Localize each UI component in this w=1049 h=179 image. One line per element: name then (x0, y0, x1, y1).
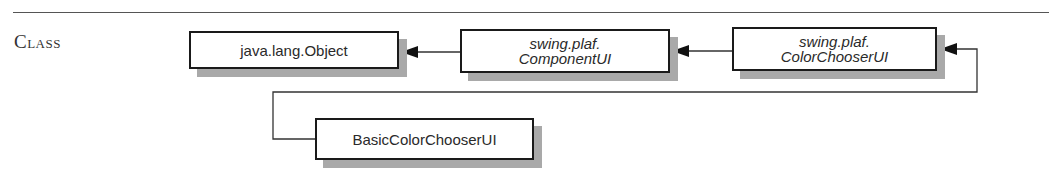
class-name: ComponentUI (519, 51, 612, 66)
class-name: ColorChooserUI (781, 49, 889, 64)
package-name: swing.plaf. (530, 36, 601, 51)
class-name: BasicColorChooserUI (352, 132, 496, 147)
package-name: swing.plaf. (799, 34, 870, 49)
class-name: java.lang.Object (240, 43, 348, 58)
